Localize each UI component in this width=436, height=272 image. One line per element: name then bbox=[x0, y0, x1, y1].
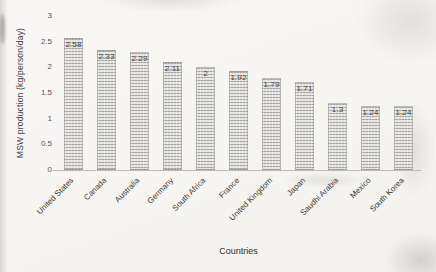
x-tick-label: South Africa bbox=[171, 176, 209, 214]
x-tick-label: Mexico bbox=[349, 176, 374, 201]
bar bbox=[97, 50, 116, 170]
x-tick-label: Japan bbox=[285, 176, 307, 198]
bar-value-label: 1.79 bbox=[257, 80, 287, 89]
bar-value-label: 2.29 bbox=[125, 54, 155, 63]
bar-value-label: 1.24 bbox=[389, 108, 419, 117]
bar-value-label: 2 bbox=[191, 69, 221, 78]
y-tick-label: 0.5 bbox=[41, 139, 52, 149]
bar-value-label: 1.71 bbox=[290, 84, 320, 93]
bar bbox=[229, 71, 248, 170]
bar bbox=[130, 52, 149, 170]
x-axis-line bbox=[53, 170, 421, 171]
scan-artifact bbox=[95, 0, 245, 12]
x-tick-label: France bbox=[217, 176, 242, 201]
y-tick-label: 2 bbox=[48, 62, 52, 72]
x-tick-label: South Korea bbox=[368, 176, 407, 215]
bar bbox=[196, 67, 215, 170]
y-tick-label: 3 bbox=[48, 11, 52, 21]
bar-value-label: 2.58 bbox=[59, 40, 89, 49]
scan-artifact bbox=[0, 14, 5, 44]
scan-artifact bbox=[350, 0, 436, 70]
x-tick-label: United States bbox=[35, 176, 76, 217]
x-tick-label: Australia bbox=[113, 176, 142, 205]
chart-container: MSW production (kg/person/day) Countries… bbox=[0, 0, 436, 272]
x-tick-label: Canada bbox=[83, 176, 110, 203]
y-tick-label: 1.5 bbox=[41, 88, 52, 98]
bar-value-label: 1.92 bbox=[224, 73, 254, 82]
bar-value-label: 1.3 bbox=[323, 105, 353, 114]
bar bbox=[163, 62, 182, 170]
y-axis-title: MSW production (kg/person/day) bbox=[15, 13, 25, 173]
bar bbox=[262, 78, 281, 170]
bar bbox=[64, 38, 83, 170]
bar bbox=[295, 82, 314, 170]
bar-value-label: 2.11 bbox=[158, 64, 188, 73]
y-tick-label: 1 bbox=[48, 114, 52, 124]
scan-artifact bbox=[0, 0, 8, 272]
bar-value-label: 2.33 bbox=[92, 52, 122, 61]
bar-value-label: 1.24 bbox=[356, 108, 386, 117]
y-tick-label: 0 bbox=[48, 165, 52, 175]
y-tick-label: 2.5 bbox=[41, 37, 52, 47]
x-tick-label: Germany bbox=[145, 176, 175, 206]
x-axis-title: Countries bbox=[57, 246, 420, 256]
